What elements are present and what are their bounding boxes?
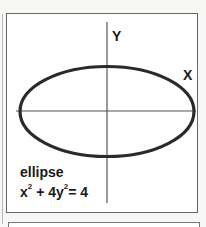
equation: x2 + 4y2= 4: [20, 184, 88, 200]
x-axis-label: X: [183, 67, 192, 83]
eq-plus: + 4y: [32, 184, 64, 200]
y-axis-label: Y: [112, 28, 121, 44]
eq-exp2: 2: [64, 182, 68, 191]
eq-exp1: 2: [28, 182, 32, 191]
curve-name: ellipse: [20, 164, 64, 180]
eq-term1: x: [20, 184, 28, 200]
next-diagram-frame: [8, 222, 200, 227]
eq-rhs: = 4: [68, 184, 88, 200]
